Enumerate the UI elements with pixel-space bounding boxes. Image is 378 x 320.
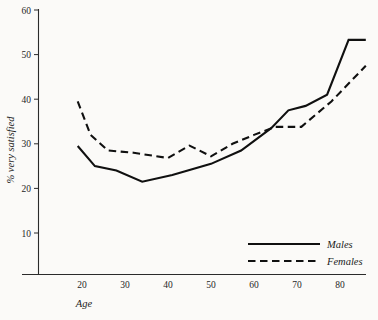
x-tick-label-60: 60 (249, 280, 259, 290)
y-tick-label-10: 10 (22, 229, 32, 239)
y-axis-title: % very satisfied (5, 116, 16, 184)
x-tick-label-40: 40 (163, 280, 173, 290)
y-tick-label-50: 50 (22, 50, 32, 60)
x-tick-label-30: 30 (120, 280, 130, 290)
legend-label-males: Males (326, 239, 353, 250)
y-tick-label-40: 40 (22, 95, 32, 105)
x-tick-label-20: 20 (77, 280, 87, 290)
chart-legend: Males Females (248, 239, 363, 267)
chart-figure: 60 50 40 30 20 10 20 30 40 50 60 70 80 %… (0, 0, 378, 320)
x-tick-label-80: 80 (335, 280, 345, 290)
legend-label-females: Females (326, 256, 363, 267)
y-tick-label-60: 60 (22, 6, 32, 16)
series-line-males (78, 40, 366, 182)
line-chart-canvas: 60 50 40 30 20 10 20 30 40 50 60 70 80 %… (0, 0, 378, 320)
series-line-females (78, 66, 366, 158)
x-tick-label-50: 50 (206, 280, 216, 290)
y-tick-label-20: 20 (22, 184, 32, 194)
y-axis-ticks (34, 10, 39, 233)
y-tick-label-30: 30 (22, 139, 32, 149)
x-axis-title: Age (75, 298, 93, 309)
x-tick-label-70: 70 (292, 280, 302, 290)
